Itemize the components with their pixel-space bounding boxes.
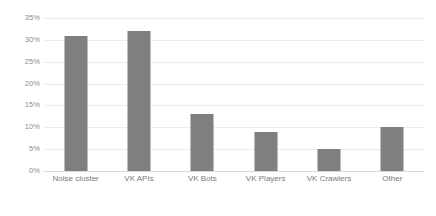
y-axis: 0%5%10%15%20%25%30%35% <box>0 18 40 171</box>
bar-slot <box>171 18 234 171</box>
bar-slot <box>297 18 360 171</box>
x-axis-category-label: VK Crawlers <box>307 175 351 183</box>
y-axis-tick-label: 5% <box>6 145 40 153</box>
bar-slot <box>361 18 424 171</box>
y-axis-tick-label: 15% <box>6 102 40 110</box>
bar <box>191 114 214 171</box>
x-axis: Noise clusterVK APIsVK BotsVK PlayersVK … <box>44 175 424 195</box>
y-axis-tick-label: 25% <box>6 58 40 66</box>
plot-area <box>44 18 424 171</box>
bars <box>44 18 424 171</box>
x-axis-category-label: VK APIs <box>124 175 153 183</box>
bar <box>254 132 277 171</box>
bar-slot <box>44 18 107 171</box>
x-axis-category-label: VK Players <box>246 175 286 183</box>
x-axis-category-label: Other <box>382 175 402 183</box>
bar-slot <box>107 18 170 171</box>
bar <box>127 31 150 171</box>
bar-chart: 0%5%10%15%20%25%30%35% Noise clusterVK A… <box>0 0 436 216</box>
bar <box>317 149 340 171</box>
bar <box>64 36 87 172</box>
bar <box>381 127 404 171</box>
y-axis-tick-label: 30% <box>6 36 40 44</box>
x-axis-category-label: VK Bots <box>188 175 217 183</box>
y-axis-tick-label: 0% <box>6 167 40 175</box>
x-axis-category-label: Noise cluster <box>53 175 99 183</box>
bar-slot <box>234 18 297 171</box>
axis-baseline <box>44 171 424 172</box>
y-axis-tick-label: 10% <box>6 124 40 132</box>
y-axis-tick-label: 35% <box>6 14 40 22</box>
y-axis-tick-label: 20% <box>6 80 40 88</box>
